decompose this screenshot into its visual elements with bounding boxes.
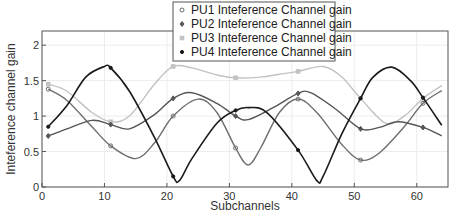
x-tick-label: 60 (411, 190, 423, 202)
x-tick-label: 20 (161, 190, 173, 202)
data-point-marker (109, 66, 112, 69)
data-point-marker (46, 133, 50, 138)
legend: PU1 Inteference Channel gainPU2 Intefere… (173, 2, 352, 61)
x-tick-label: 50 (348, 190, 360, 202)
x-tick-label: 40 (286, 190, 298, 202)
data-point-marker (296, 91, 300, 96)
y-axis-label: Inteference channel gain (4, 43, 18, 174)
data-point-marker (359, 126, 363, 131)
data-point-marker (296, 149, 299, 152)
data-point-marker (421, 96, 424, 99)
x-tick-label: 10 (98, 190, 110, 202)
data-point-marker (421, 125, 425, 130)
series-pu2 (46, 91, 442, 139)
legend-marker-icon (180, 36, 184, 40)
data-point-marker (359, 97, 362, 100)
series-pu3 (46, 65, 441, 124)
data-point-marker (172, 175, 175, 178)
data-point-marker (171, 65, 175, 69)
x-axis-label: Subchannels (210, 199, 279, 213)
legend-label: PU3 Inteference Channel gain (191, 31, 352, 45)
y-tick-label: 1 (33, 110, 39, 122)
legend-label: PU2 Inteference Channel gain (191, 17, 352, 31)
y-tick-label: 2 (33, 39, 39, 51)
legend-item-pu3: PU3 Inteference Channel gain (180, 31, 352, 45)
y-tick-label: 0.5 (24, 146, 39, 158)
data-point-marker (234, 114, 238, 119)
data-point-marker (234, 109, 237, 112)
series-pu4 (47, 65, 442, 183)
line-chart: 010203040506000.511.52 Subchannels Intef… (0, 0, 467, 219)
data-point-marker (234, 76, 238, 80)
series-line (48, 65, 442, 124)
legend-label: PU1 Inteference Channel gain (191, 3, 352, 17)
legend-marker-icon (180, 50, 183, 53)
legend-label: PU4 Inteference Channel gain (191, 45, 352, 59)
series-line (48, 91, 442, 136)
axis-ticks: 010203040506000.511.52 (24, 39, 423, 202)
data-point-marker (46, 82, 50, 86)
legend-item-pu1: PU1 Inteference Channel gain (180, 3, 352, 17)
legend-item-pu4: PU4 Inteference Channel gain (180, 45, 351, 59)
legend-item-pu2: PU2 Inteference Channel gain (180, 17, 352, 31)
data-point-marker (47, 125, 50, 128)
y-tick-label: 1.5 (24, 75, 39, 87)
data-point-marker (296, 70, 300, 74)
y-tick-label: 0 (33, 181, 39, 193)
x-tick-label: 0 (39, 190, 45, 202)
data-series (46, 65, 442, 184)
